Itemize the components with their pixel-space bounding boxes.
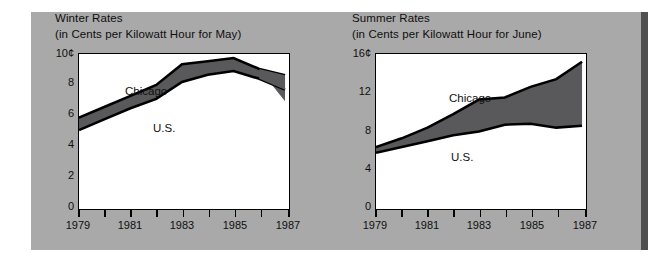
x-tick-mark-winter-1987 xyxy=(288,210,290,217)
x-tick-label-summer-1981: 1981 xyxy=(405,219,449,231)
y-tick-label-summer-12: 12 xyxy=(331,85,371,97)
plot-svg-winter xyxy=(79,54,289,209)
x-tick-label-winter-1979: 1979 xyxy=(56,219,100,231)
x-tick-label-winter-1981: 1981 xyxy=(108,219,152,231)
x-tick-mark-summer-1984 xyxy=(506,210,508,217)
x-tick-mark-winter-1979 xyxy=(78,210,80,217)
y-tick-label-winter-6: 6 xyxy=(34,107,74,119)
chart-title-winter: Winter Rates xyxy=(55,12,123,24)
x-tick-label-summer-1987: 1987 xyxy=(563,219,607,231)
band-area-winter xyxy=(79,58,285,130)
x-tick-mark-winter-1981 xyxy=(130,210,132,217)
chart-summer-rates: Summer Rates (in Cents per Kilowatt Hour… xyxy=(311,0,601,238)
x-tick-mark-winter-1982 xyxy=(156,210,158,217)
y-tick-label-winter-8: 8 xyxy=(34,76,74,88)
x-tick-mark-summer-1980 xyxy=(401,210,403,217)
panel-shadow-stripe xyxy=(641,12,648,250)
series-label-chicago-winter: Chicago xyxy=(125,85,167,97)
x-tick-mark-summer-1979 xyxy=(375,210,377,217)
chart-figure: Winter Rates (in Cents per Kilowatt Hour… xyxy=(0,0,663,268)
x-tick-mark-summer-1982 xyxy=(453,210,455,217)
x-tick-label-winter-1987: 1987 xyxy=(266,219,310,231)
series-label-us-winter: U.S. xyxy=(153,122,175,134)
plot-area-summer xyxy=(375,53,587,210)
x-tick-mark-winter-1985 xyxy=(235,210,237,217)
series-label-us-summer: U.S. xyxy=(451,151,473,163)
y-tick-label-winter-2: 2 xyxy=(34,169,74,181)
x-tick-mark-winter-1983 xyxy=(183,210,185,217)
y-tick-label-summer-4: 4 xyxy=(331,162,371,174)
x-tick-mark-summer-1983 xyxy=(480,210,482,217)
x-tick-label-winter-1985: 1985 xyxy=(213,219,257,231)
x-tick-mark-winter-1980 xyxy=(104,210,106,217)
x-tick-mark-summer-1985 xyxy=(532,210,534,217)
x-tick-label-winter-1983: 1983 xyxy=(160,219,204,231)
band-area-summer xyxy=(376,62,582,153)
x-tick-label-summer-1985: 1985 xyxy=(510,219,554,231)
chart-subtitle-summer: (in Cents per Kilowatt Hour for June) xyxy=(352,28,542,40)
plot-area-winter xyxy=(78,53,290,210)
y-tick-label-winter-10: 10¢ xyxy=(34,47,74,59)
y-tick-label-summer-0: 0 xyxy=(331,200,371,212)
chart-winter-rates: Winter Rates (in Cents per Kilowatt Hour… xyxy=(14,0,304,238)
y-tick-label-summer-16: 16¢ xyxy=(331,47,371,59)
series-label-chicago-summer: Chicago xyxy=(449,92,491,104)
y-tick-label-winter-4: 4 xyxy=(34,138,74,150)
x-tick-label-summer-1979: 1979 xyxy=(353,219,397,231)
x-tick-mark-summer-1987 xyxy=(585,210,587,217)
chart-title-summer: Summer Rates xyxy=(352,12,430,24)
plot-svg-summer xyxy=(376,54,586,209)
x-tick-mark-winter-1986 xyxy=(261,210,263,217)
y-tick-label-summer-8: 8 xyxy=(331,124,371,136)
x-tick-mark-summer-1981 xyxy=(427,210,429,217)
x-tick-mark-winter-1984 xyxy=(209,210,211,217)
x-tick-mark-summer-1986 xyxy=(558,210,560,217)
chart-subtitle-winter: (in Cents per Kilowatt Hour for May) xyxy=(55,28,241,40)
x-tick-label-summer-1983: 1983 xyxy=(457,219,501,231)
y-tick-label-winter-0: 0 xyxy=(34,200,74,212)
band-right-cap-winter xyxy=(259,69,285,90)
